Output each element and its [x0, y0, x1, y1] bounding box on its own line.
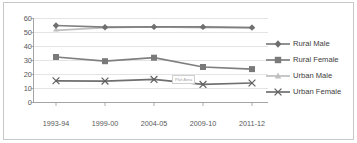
- plot-area-tag: Plot Area: [172, 75, 195, 84]
- legend-label-rural-male: Rural Male: [293, 36, 330, 52]
- legend-item-rural-female[interactable]: Rural Female: [265, 52, 357, 68]
- legend-item-urban-female[interactable]: Urban Female: [265, 84, 357, 100]
- legend-item-rural-male[interactable]: Rural Male: [265, 36, 357, 52]
- series-urban-female: [53, 76, 256, 88]
- chart-screenshot: 60 50 40 30 20 10 0 1993-94 1999-00 2004…: [0, 0, 357, 143]
- legend-label-urban-male: Urban Male: [293, 68, 332, 84]
- legend-label-rural-female: Rural Female: [293, 52, 339, 68]
- legend-label-urban-female: Urban Female: [293, 84, 341, 100]
- legend-marker-square-icon: [265, 52, 291, 68]
- series-rural-female: [53, 54, 255, 72]
- line-chart: 60 50 40 30 20 10 0 1993-94 1999-00 2004…: [0, 0, 357, 143]
- chart-legend: Rural Male Rural Female Urban Male: [265, 36, 357, 100]
- legend-marker-diamond-icon: [265, 36, 291, 52]
- x-axis-ticks: [56, 103, 252, 107]
- legend-item-urban-male[interactable]: Urban Male: [265, 68, 357, 84]
- legend-marker-cross-icon: [265, 84, 291, 100]
- legend-marker-triangle-icon: [265, 68, 291, 84]
